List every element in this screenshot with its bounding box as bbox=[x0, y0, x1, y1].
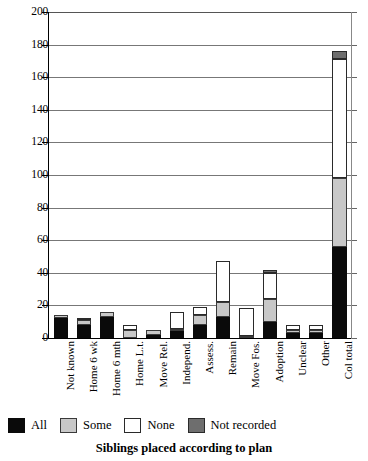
y-axis-tick-label: 100 bbox=[14, 169, 48, 180]
stacked-bar[interactable] bbox=[332, 51, 346, 338]
x-tick-slot: Adoption bbox=[258, 340, 281, 402]
stacked-bar[interactable] bbox=[123, 325, 137, 338]
bar-slot bbox=[258, 12, 281, 338]
legend-label: None bbox=[147, 418, 174, 433]
y-axis-tick-label: 20 bbox=[14, 299, 48, 310]
legend-label: All bbox=[31, 418, 47, 433]
bar-group bbox=[49, 12, 351, 338]
stacked-bar[interactable] bbox=[146, 330, 160, 338]
x-tick-slot: Assess. bbox=[188, 340, 211, 402]
x-tick-slot: Home 6 mth bbox=[95, 340, 118, 402]
legend-item[interactable]: Not recorded bbox=[188, 418, 277, 433]
chart-title: Siblings placed according to plan bbox=[0, 441, 368, 456]
chart-legend: AllSomeNoneNot recorded bbox=[8, 415, 360, 435]
plot-right-border bbox=[351, 12, 352, 339]
bar-segment-some bbox=[123, 330, 137, 338]
x-tick-slot: Not known bbox=[49, 340, 72, 402]
bar-segment-some bbox=[193, 315, 207, 325]
stacked-bar[interactable] bbox=[216, 261, 230, 338]
stacked-bar[interactable] bbox=[263, 270, 277, 338]
stacked-bar[interactable] bbox=[309, 325, 323, 338]
x-tick-slot: Home L.t. bbox=[119, 340, 142, 402]
y-axis-tick-label: 0 bbox=[14, 332, 48, 343]
bar-slot bbox=[188, 12, 211, 338]
stacked-bar[interactable] bbox=[100, 312, 114, 338]
stacked-bar[interactable] bbox=[77, 318, 91, 338]
x-tick-slot: Move Fos. bbox=[235, 340, 258, 402]
bar-segment-some bbox=[263, 299, 277, 322]
bar-segment-all bbox=[54, 318, 68, 338]
stacked-bar-chart: 020406080100120140160180200 Not knownHom… bbox=[0, 0, 368, 461]
y-axis-tick-label: 80 bbox=[14, 202, 48, 213]
bar-segment-all bbox=[100, 317, 114, 338]
bar-slot bbox=[142, 12, 165, 338]
y-axis-tick-label: 160 bbox=[14, 71, 48, 82]
bar-segment-some bbox=[239, 336, 253, 338]
bar-segment-all bbox=[146, 335, 160, 338]
bar-segment-some bbox=[332, 178, 346, 246]
legend-label: Some bbox=[83, 418, 111, 433]
legend-item[interactable]: All bbox=[8, 418, 47, 433]
y-axis-tick-label: 180 bbox=[14, 39, 48, 50]
bar-segment-none bbox=[170, 312, 184, 330]
x-axis-line bbox=[48, 338, 352, 339]
bar-segment-notrec bbox=[332, 51, 346, 59]
x-tick-slot: Unclear bbox=[281, 340, 304, 402]
bar-slot bbox=[49, 12, 72, 338]
x-tick-slot: Other bbox=[305, 340, 328, 402]
legend-item[interactable]: None bbox=[124, 418, 174, 433]
stacked-bar[interactable] bbox=[54, 315, 68, 338]
bar-slot bbox=[281, 12, 304, 338]
bar-segment-some bbox=[216, 302, 230, 317]
bar-slot bbox=[72, 12, 95, 338]
stacked-bar[interactable] bbox=[170, 312, 184, 338]
legend-item[interactable]: Some bbox=[60, 418, 111, 433]
bar-slot bbox=[95, 12, 118, 338]
x-tick-slot: Remain bbox=[212, 340, 235, 402]
bar-segment-none bbox=[239, 308, 253, 336]
bar-segment-all bbox=[309, 333, 323, 338]
y-axis-tick-label: 200 bbox=[14, 6, 48, 17]
y-axis-tick-label: 60 bbox=[14, 234, 48, 245]
bar-segment-all bbox=[170, 331, 184, 338]
bar-slot bbox=[212, 12, 235, 338]
x-axis-tick-labels: Not knownHome 6 wkHome 6 mthHome L.t.Mov… bbox=[49, 340, 351, 402]
bar-segment-all bbox=[286, 333, 300, 338]
bar-segment-all bbox=[216, 317, 230, 338]
bar-slot bbox=[165, 12, 188, 338]
dark-gray-swatch bbox=[188, 418, 205, 433]
stacked-bar[interactable] bbox=[193, 307, 207, 338]
bar-segment-all bbox=[77, 325, 91, 338]
bar-slot bbox=[328, 12, 351, 338]
x-tick-slot: Col total bbox=[328, 340, 351, 402]
white-swatch bbox=[124, 418, 141, 433]
bar-segment-none bbox=[193, 307, 207, 315]
bar-segment-all bbox=[332, 247, 346, 338]
bar-slot bbox=[305, 12, 328, 338]
y-axis-tick-label: 40 bbox=[14, 267, 48, 278]
bar-segment-none bbox=[216, 261, 230, 302]
y-axis-tick-label: 140 bbox=[14, 104, 48, 115]
x-axis-tick-label: Col total bbox=[343, 341, 354, 379]
x-tick-slot: Home 6 wk bbox=[72, 340, 95, 402]
black-swatch bbox=[8, 418, 25, 433]
bar-segment-all bbox=[193, 325, 207, 338]
bar-segment-none bbox=[332, 59, 346, 178]
bar-slot bbox=[119, 12, 142, 338]
stacked-bar[interactable] bbox=[239, 308, 253, 338]
bar-segment-all bbox=[263, 322, 277, 338]
bar-segment-none bbox=[263, 273, 277, 299]
x-tick-slot: Independ. bbox=[165, 340, 188, 402]
legend-label: Not recorded bbox=[211, 418, 277, 433]
stacked-bar[interactable] bbox=[286, 325, 300, 338]
y-axis-tick-label: 120 bbox=[14, 136, 48, 147]
bar-slot bbox=[235, 12, 258, 338]
light-gray-swatch bbox=[60, 418, 77, 433]
x-tick-slot: Move Rel. bbox=[142, 340, 165, 402]
